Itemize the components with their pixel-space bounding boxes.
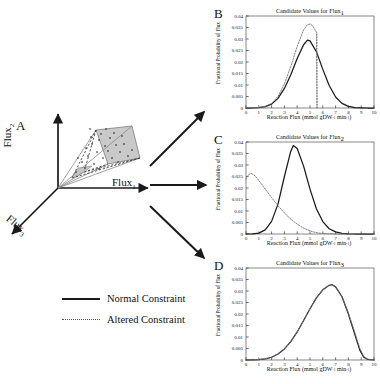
y-tick-label: 0.04 (234, 266, 243, 271)
y-tick-label: 0.005 (232, 346, 244, 351)
y-tick-label: 0.015 (232, 197, 244, 202)
y-tick-label: 0.03 (234, 289, 243, 294)
y-tick-label: 0.01 (234, 335, 243, 340)
x-tick-label: 2 (270, 110, 273, 115)
x-tick-label: 0 (245, 110, 248, 115)
figure-canvas: A (0, 0, 380, 384)
arrow-to-panel-b (150, 112, 204, 166)
panel-a-letter: A (16, 118, 25, 134)
y-tick-label: 0.005 (232, 94, 244, 99)
x-tick-label: 4 (296, 110, 299, 115)
series-normal (246, 40, 374, 108)
legend-item-normal: Normal Constraint (62, 288, 212, 309)
arrow-to-panel-d (150, 206, 204, 258)
x-tick-label: 1 (258, 362, 261, 367)
y-tick-label: 0.025 (232, 48, 244, 53)
plot-frame (246, 268, 374, 360)
x-tick-label: 10 (372, 362, 378, 367)
x-tick-label: 8 (347, 236, 350, 241)
flux2-axis-label: Flux2 (1, 124, 16, 148)
x-tick-label: 8 (347, 110, 350, 115)
x-tick-label: 6 (322, 362, 325, 367)
legend-label-normal: Normal Constraint (107, 293, 185, 304)
y-tick-label: 0.035 (232, 277, 244, 282)
x-tick-label: 4 (296, 362, 299, 367)
y-tick-label: 0.04 (234, 14, 243, 19)
x-tick-label: 7 (334, 236, 337, 241)
legend-key-solid-line (62, 294, 100, 304)
x-tick-label: 7 (334, 110, 337, 115)
panel-c-plot: 01234567891000.0050.010.0150.020.0250.03… (210, 126, 380, 254)
x-tick-label: 2 (270, 362, 273, 367)
x-tick-label: 4 (296, 236, 299, 241)
x-tick-label: 10 (372, 110, 378, 115)
series-altered (246, 24, 317, 108)
x-tick-label: 0 (245, 236, 248, 241)
y-tick-label: 0.03 (234, 163, 243, 168)
x-tick-label: 6 (322, 110, 325, 115)
panel-b-plot: 01234567891000.0050.010.0150.020.0250.03… (210, 0, 380, 128)
series-altered (246, 174, 374, 234)
panel-b-chart: B Candidate Values for Flux1 Fractional … (210, 0, 380, 128)
panel-c-chart: C Candidate Values for Flux2 Fractional … (210, 126, 380, 254)
y-tick-label: 0.02 (234, 186, 243, 191)
y-tick-label: 0 (241, 358, 244, 363)
x-tick-label: 8 (347, 362, 350, 367)
y-tick-label: 0.02 (234, 312, 243, 317)
x-tick-label: 9 (360, 110, 363, 115)
x-tick-label: 3 (283, 110, 286, 115)
y-tick-label: 0.015 (232, 71, 244, 76)
legend: Normal Constraint Altered Constraint (62, 288, 212, 332)
y-tick-label: 0.025 (232, 300, 244, 305)
x-tick-label: 1 (258, 110, 261, 115)
y-tick-label: 0.035 (232, 151, 244, 156)
y-tick-label: 0.02 (234, 60, 243, 65)
plot-frame (246, 16, 374, 108)
series-normal (246, 145, 374, 234)
flux1-axis-label: Flux1 (112, 176, 136, 191)
x-tick-label: 3 (283, 236, 286, 241)
x-tick-label: 6 (322, 236, 325, 241)
panel-d-chart: D Candidate Values for Flux3 Fractional … (210, 252, 380, 380)
y-tick-label: 0.01 (234, 209, 243, 214)
y-tick-label: 0.01 (234, 83, 243, 88)
x-tick-label: 9 (360, 236, 363, 241)
legend-item-altered: Altered Constraint (62, 309, 212, 330)
x-tick-label: 9 (360, 362, 363, 367)
x-tick-label: 2 (270, 236, 273, 241)
y-tick-label: 0.03 (234, 37, 243, 42)
y-tick-label: 0 (241, 106, 244, 111)
legend-label-altered: Altered Constraint (107, 314, 185, 325)
series-altered (246, 285, 374, 360)
x-tick-label: 3 (283, 362, 286, 367)
x-tick-label: 7 (334, 362, 337, 367)
panel-d-plot: 01234567891000.0050.010.0150.020.0250.03… (210, 252, 380, 380)
y-tick-label: 0 (241, 232, 244, 237)
x-tick-label: 5 (309, 110, 312, 115)
series-normal (246, 285, 374, 360)
x-tick-label: 0 (245, 362, 248, 367)
legend-key-dotted-line (62, 315, 100, 325)
x-tick-label: 1 (258, 236, 261, 241)
y-tick-label: 0.005 (232, 220, 244, 225)
y-tick-label: 0.015 (232, 323, 244, 328)
x-tick-label: 10 (372, 236, 378, 241)
y-tick-label: 0.035 (232, 25, 244, 30)
y-tick-label: 0.025 (232, 174, 244, 179)
x-tick-label: 5 (309, 236, 312, 241)
y-tick-label: 0.04 (234, 140, 243, 145)
x-tick-label: 5 (309, 362, 312, 367)
